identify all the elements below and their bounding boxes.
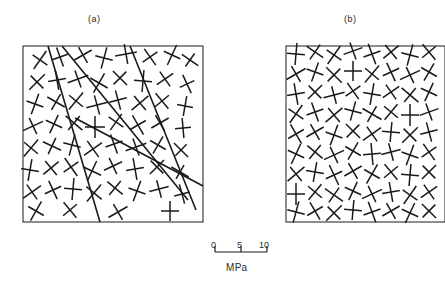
stress-cross xyxy=(422,144,437,160)
cross-bar-minor xyxy=(310,202,320,219)
cross-bar-minor xyxy=(329,165,338,185)
stress-cross xyxy=(307,63,324,82)
cross-bar-minor xyxy=(365,66,379,83)
cross-bar-minor xyxy=(385,104,398,119)
stress-cross xyxy=(382,122,400,142)
cross-bar-minor xyxy=(425,83,433,101)
panel-label-b: (b) xyxy=(344,14,357,24)
cross-bar-minor xyxy=(368,202,376,223)
stress-cross xyxy=(307,202,323,219)
stress-cross xyxy=(161,201,179,221)
cross-bar-minor xyxy=(43,162,58,175)
stress-cross xyxy=(362,186,382,202)
cross-bar-minor xyxy=(31,94,39,115)
cross-bar-minor xyxy=(23,121,43,130)
scale-tick-label-10: 10 xyxy=(259,240,269,250)
stress-cross xyxy=(346,83,361,99)
cross-bar-minor xyxy=(309,184,322,199)
stress-cross xyxy=(400,67,420,83)
stress-cross xyxy=(402,127,418,143)
stress-cross xyxy=(345,142,361,159)
stress-cross xyxy=(363,143,381,165)
stress-cross xyxy=(420,122,437,141)
cross-bar-minor xyxy=(167,45,176,65)
stress-cross xyxy=(344,163,361,179)
cross-bar-minor xyxy=(400,70,420,79)
cross-bar-minor xyxy=(326,108,343,122)
stress-cross xyxy=(307,103,324,122)
stress-cross xyxy=(288,144,304,164)
stress-cross xyxy=(363,83,381,105)
cross-bar-minor xyxy=(65,158,78,176)
cross-bar-minor xyxy=(87,161,96,181)
cross-bar-minor xyxy=(402,88,419,102)
cross-bar-minor xyxy=(64,202,77,217)
cross-bar-minor xyxy=(157,73,173,84)
scale-tick-label-5: 5 xyxy=(237,240,242,250)
stress-cross xyxy=(344,101,361,120)
stress-cross xyxy=(384,104,398,119)
stress-cross xyxy=(323,86,344,103)
cross-bar-minor xyxy=(182,54,198,65)
cross-bar-minor xyxy=(153,136,163,153)
cross-bar-minor xyxy=(156,93,169,108)
stress-cross xyxy=(306,162,324,182)
stress-cross xyxy=(420,104,439,121)
stress-cross xyxy=(344,200,362,220)
cross-bar-minor xyxy=(288,167,305,181)
cross-bar-minor xyxy=(23,186,41,199)
cross-bar-minor xyxy=(74,50,91,60)
cross-bar-minor xyxy=(404,186,417,204)
stress-cross xyxy=(421,185,437,200)
cross-bar-minor xyxy=(409,164,411,186)
cross-bar-minor xyxy=(328,46,341,64)
cross-bar-minor xyxy=(405,203,414,223)
cross-bar-minor xyxy=(385,164,398,179)
stress-cross xyxy=(346,124,360,138)
stress-cross xyxy=(113,71,127,85)
cross-bar-minor xyxy=(347,83,358,99)
cross-bar-minor xyxy=(286,69,305,80)
stress-cross xyxy=(129,181,146,202)
cross-bar-minor xyxy=(367,164,378,183)
cross-bar-minor xyxy=(368,44,376,65)
stress-cross xyxy=(63,202,77,217)
stress-cross xyxy=(177,96,193,116)
cross-bar-minor xyxy=(66,116,83,130)
stress-cross xyxy=(326,165,342,185)
stress-cross xyxy=(21,159,39,181)
cross-bar-minor xyxy=(420,109,439,116)
stress-cross xyxy=(382,182,400,202)
stress-cross xyxy=(149,180,168,197)
stress-cross xyxy=(46,115,62,133)
figure-canvas xyxy=(0,0,445,283)
figure-root: (a) (b) 0 5 10 MPa xyxy=(0,0,445,283)
stress-cross xyxy=(45,181,61,199)
stress-cross xyxy=(95,47,112,68)
stress-cross xyxy=(150,136,166,153)
stress-cross xyxy=(421,63,437,80)
stress-cross xyxy=(109,114,124,130)
stress-cross xyxy=(64,178,82,200)
stress-cross xyxy=(307,145,322,159)
stress-cross xyxy=(182,53,198,66)
cross-bar-minor xyxy=(383,86,399,97)
fault-trace xyxy=(62,46,188,200)
stress-cross xyxy=(85,116,105,138)
stress-cross xyxy=(175,118,191,138)
stress-cross xyxy=(64,158,79,176)
cross-bar-minor xyxy=(31,201,42,220)
stress-cross xyxy=(325,188,343,203)
cross-bar-minor xyxy=(330,125,338,146)
stress-cross xyxy=(363,127,381,142)
stress-cross xyxy=(307,45,323,60)
stress-cross xyxy=(362,106,381,122)
cross-bar-minor xyxy=(50,115,58,133)
stress-cross xyxy=(308,184,322,199)
stress-cross xyxy=(422,165,436,179)
stress-cross xyxy=(308,85,322,99)
stress-cross xyxy=(27,94,44,115)
cross-bar-minor xyxy=(362,189,382,198)
stress-cross xyxy=(364,44,381,65)
panel-a-stress-crosses xyxy=(21,44,198,221)
